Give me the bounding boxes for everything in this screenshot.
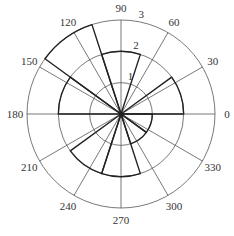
rose-wedge-108-144 bbox=[45, 25, 121, 114]
angle-label-60: 60 bbox=[168, 16, 180, 28]
radial-label-1: 1 bbox=[128, 70, 134, 82]
angle-label-330: 330 bbox=[204, 161, 221, 173]
radial-label-2: 2 bbox=[133, 39, 139, 51]
angle-label-150: 150 bbox=[21, 55, 38, 67]
angle-label-30: 30 bbox=[207, 55, 219, 67]
angle-label-210: 210 bbox=[21, 161, 38, 173]
rose-wedge-216-252 bbox=[70, 114, 121, 174]
polar-rose-chart: 0306090120150180210240270300330123 bbox=[0, 0, 234, 236]
angle-label-270: 270 bbox=[113, 214, 130, 226]
angle-label-90: 90 bbox=[116, 2, 128, 14]
rose-wedges bbox=[45, 25, 184, 177]
radial-label-3: 3 bbox=[139, 8, 145, 20]
angle-label-240: 240 bbox=[60, 200, 77, 212]
angle-label-300: 300 bbox=[166, 200, 183, 212]
angle-label-0: 0 bbox=[224, 108, 230, 120]
angle-label-180: 180 bbox=[7, 108, 24, 120]
angle-label-120: 120 bbox=[60, 16, 77, 28]
